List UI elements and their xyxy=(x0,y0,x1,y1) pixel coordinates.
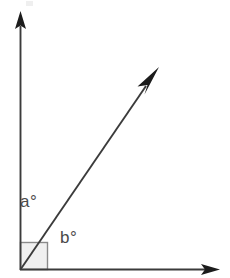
angle-label-a: a° xyxy=(20,193,37,210)
right-angle-square xyxy=(21,243,48,270)
geometry-figure: a° b° xyxy=(0,0,230,278)
angle-label-b: b° xyxy=(60,229,77,246)
diagonal-ray-arrowhead xyxy=(138,67,160,95)
diagonal-ray-line xyxy=(21,86,147,270)
top-edge-artifact xyxy=(26,1,33,6)
angle-diagram-canvas xyxy=(0,0,230,278)
